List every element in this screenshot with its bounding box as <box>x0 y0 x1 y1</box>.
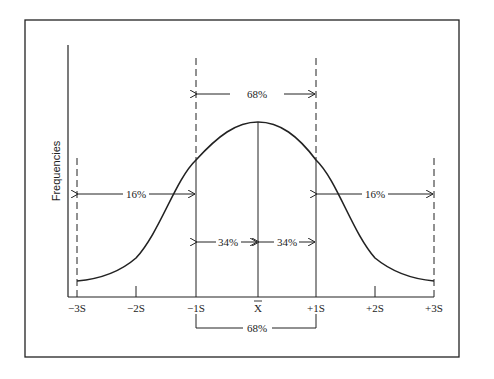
tick-label-mean: X <box>254 302 262 314</box>
tick-label-minus-1s: −1S <box>187 302 205 314</box>
label-right-34: 34% <box>277 236 297 248</box>
label-left-34: 34% <box>218 236 238 248</box>
tick-label-minus-3s: −3S <box>68 302 86 314</box>
normal-distribution-diagram: Frequencies 68% 16% 16% 34% 34% −3S −2S … <box>0 0 494 379</box>
label-top-68: 68% <box>247 88 267 100</box>
label-bottom-68: 68% <box>247 322 267 334</box>
label-right-16: 16% <box>365 188 385 200</box>
normal-curve <box>77 122 434 281</box>
tick-label-plus-2s: +2S <box>366 302 384 314</box>
y-axis-label: Frequencies <box>50 140 62 201</box>
tick-label-plus-1s: +1S <box>307 302 325 314</box>
label-left-16: 16% <box>126 188 146 200</box>
tick-label-minus-2s: −2S <box>127 302 145 314</box>
outer-frame <box>25 20 459 357</box>
tick-label-plus-3s: +3S <box>425 302 443 314</box>
